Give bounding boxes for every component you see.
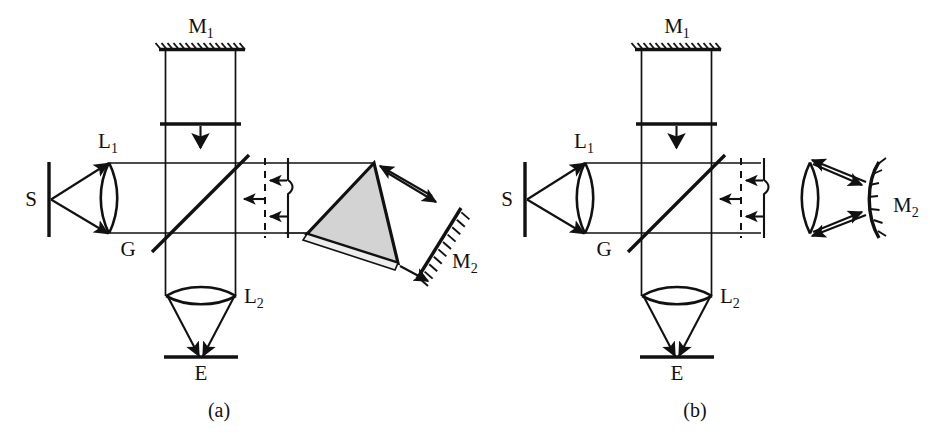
caption-panel-b: (b) bbox=[683, 399, 706, 422]
output-ray-left-a bbox=[168, 297, 199, 356]
mirror2-to-lens-ray-lower-b bbox=[812, 215, 866, 236]
label-source-b: S bbox=[501, 187, 513, 211]
label-screen-b: E bbox=[671, 361, 684, 385]
mirror2-to-lens-ray-upper-b bbox=[812, 160, 866, 182]
label-mirror2-b: M2 bbox=[893, 193, 919, 220]
source-ray-upper-b bbox=[527, 164, 584, 200]
label-mirror2-a: M2 bbox=[452, 249, 478, 276]
label-lens2-b: L2 bbox=[720, 284, 740, 311]
prism-to-mirror2-ray-in-a bbox=[380, 166, 432, 196]
panel-a: M1 G S L1 bbox=[25, 14, 478, 422]
source-ray-lower-b bbox=[527, 200, 584, 234]
caption-panel-a: (a) bbox=[208, 399, 230, 422]
focusing-lens-b[interactable] bbox=[802, 163, 819, 234]
concave-mirror-M2-b[interactable] bbox=[869, 158, 887, 238]
prism-to-mirror2-ray-out-a bbox=[386, 172, 436, 202]
output-ray-right-b bbox=[679, 297, 710, 356]
label-screen-a: E bbox=[195, 361, 208, 385]
aperture-stop-b[interactable] bbox=[764, 158, 769, 238]
label-lens1-b: L1 bbox=[574, 129, 594, 156]
beamsplitter-G-b[interactable] bbox=[628, 155, 725, 252]
source-ray-lower-a bbox=[51, 200, 108, 234]
label-beamsplitter-b: G bbox=[596, 237, 611, 261]
plane-mirror-M1-a[interactable] bbox=[156, 43, 246, 50]
beamsplitter-G-a[interactable] bbox=[152, 155, 249, 252]
source-ray-upper-a bbox=[51, 164, 108, 200]
lens-to-mirror2-ray-lower-b bbox=[813, 212, 862, 232]
plane-mirror-M2-a[interactable] bbox=[417, 208, 469, 286]
label-beamsplitter-a: G bbox=[120, 237, 135, 261]
label-mirror1-a: M1 bbox=[188, 14, 214, 41]
aperture-stop-a[interactable] bbox=[288, 158, 293, 238]
imaging-lens-L2-b[interactable] bbox=[642, 287, 712, 304]
collimating-lens-L1-b[interactable] bbox=[577, 163, 594, 234]
label-mirror1-b: M1 bbox=[664, 14, 690, 41]
lens-to-mirror2-ray-upper-b bbox=[813, 164, 862, 185]
panel-b: M1 G S L1 bbox=[501, 14, 919, 422]
plane-mirror-M1-b[interactable] bbox=[632, 43, 722, 50]
label-lens2-a: L2 bbox=[244, 284, 264, 311]
collimating-lens-L1-a[interactable] bbox=[101, 163, 118, 234]
label-lens1-a: L1 bbox=[98, 129, 118, 156]
prism-retroreflector-a[interactable] bbox=[303, 163, 398, 270]
optics-diagram-svg: M1 G S L1 bbox=[0, 0, 930, 443]
label-source-a: S bbox=[25, 187, 37, 211]
output-ray-right-a bbox=[203, 297, 234, 356]
figure-root: M1 G S L1 bbox=[0, 0, 930, 443]
imaging-lens-L2-a[interactable] bbox=[166, 287, 236, 304]
output-ray-left-b bbox=[644, 297, 675, 356]
